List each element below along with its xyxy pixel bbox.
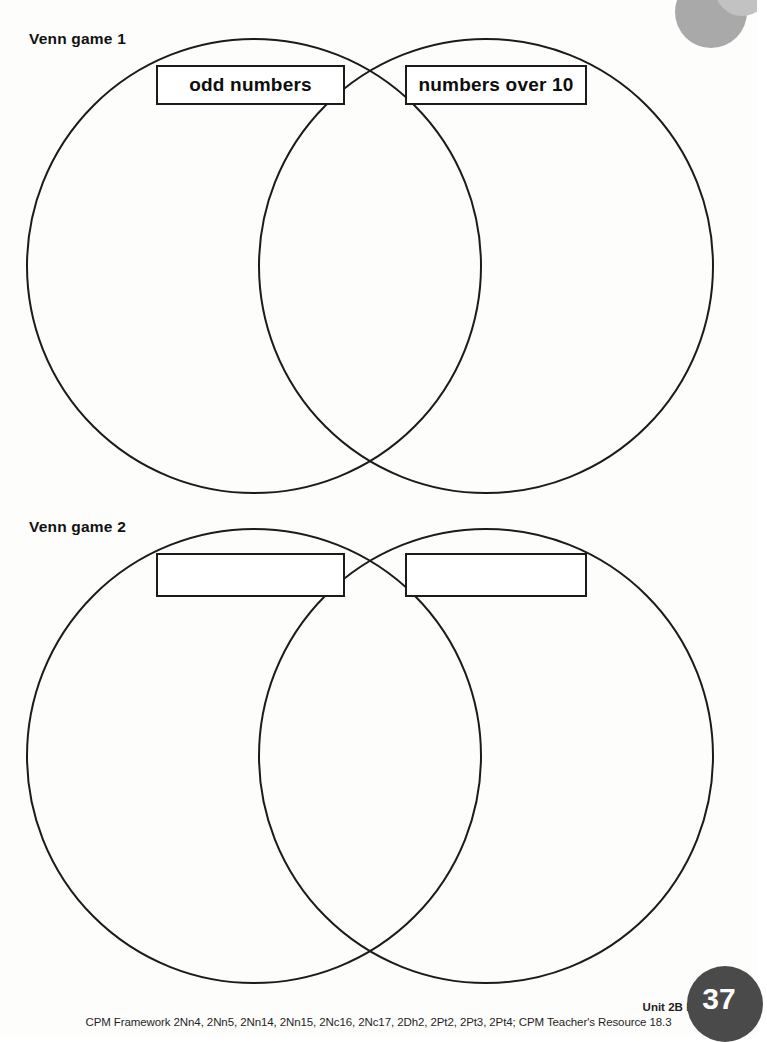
venn-2-left-circle [27,529,481,983]
venn-2-left-label-box[interactable] [156,553,345,597]
venn-1-left-circle [27,39,481,493]
venn-2-right-circle [259,529,713,983]
footer-framework-line: CPM Framework 2Nn4, 2Nn5, 2Nn14, 2Nn15, … [0,1016,757,1028]
venn-diagram-2 [0,523,757,993]
footer-unit-line: Unit 2B Handling data [0,1001,767,1013]
footer-unit-code: Unit 2B [643,1001,683,1013]
venn-circles-2 [0,523,757,993]
venn-1-left-label-box[interactable]: odd numbers [156,65,345,105]
page-number-badge: 37 [687,966,763,1042]
venn-2-right-label-box[interactable] [405,553,587,597]
venn-1-right-label-box[interactable]: numbers over 10 [405,65,587,105]
venn-diagram-1: odd numbers numbers over 10 [0,30,757,500]
decorative-circle-small-icon [715,0,757,16]
venn-1-right-circle [259,39,713,493]
venn-circles-1 [0,30,757,500]
